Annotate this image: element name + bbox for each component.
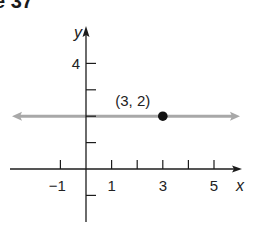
y-tick-label: 4 [72, 55, 80, 72]
data-point [158, 111, 168, 121]
x-tick-label: 5 [210, 177, 218, 194]
x-tick-label: −1 [49, 177, 66, 194]
data-point-label: (3, 2) [115, 92, 150, 109]
y-axis-label: y [73, 24, 83, 41]
chart: −11354xy(3, 2) [0, 0, 259, 229]
x-tick-label: 3 [159, 177, 167, 194]
x-tick-label: 1 [107, 177, 115, 194]
x-axis-label: x [235, 177, 245, 194]
